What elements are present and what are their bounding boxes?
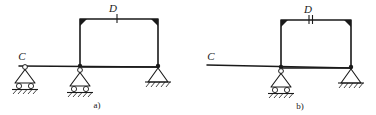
support-b-0-roller [268,65,294,98]
support-a-1-hatching [68,93,92,98]
frame-b-outline [281,20,351,68]
figure-container: D C [0,0,376,115]
support-a-0-roller-left [16,83,21,88]
diagram-b: D C [207,3,364,111]
support-a-1-roller-left [71,86,76,91]
support-a-0-roller [12,65,38,94]
support-b-1-triangle [341,69,361,83]
support-b-1-hatching [339,83,363,88]
support-a-0-roller-right [28,83,33,88]
frame-b-corner-tr [344,20,351,27]
frame-a [80,19,158,67]
frame-a-corner-tr [151,19,158,26]
support-b-0-triangle [271,74,291,88]
support-a-0-pin [23,65,28,70]
support-a-1-roller-right [83,86,88,91]
structural-diagram-svg: D C [0,0,376,115]
frame-b [281,20,351,68]
support-a-1-pin [78,68,83,73]
support-b-0-roller-left [272,87,277,92]
support-a-0-hatching [13,90,37,95]
support-b-0-roller-right [284,87,289,92]
label-a-D: D [108,2,117,14]
diagram-a: D C [12,2,171,110]
label-a-C: C [18,50,26,62]
support-b-0-pin [279,69,284,74]
support-a-0-triangle [15,70,35,84]
support-b-0-hatching [269,94,293,99]
support-a-1-triangle [70,73,90,87]
support-a-2-hatching [146,82,170,87]
caption-a: a) [94,100,101,110]
frame-a-outline [80,19,158,67]
label-b-C: C [207,50,215,62]
frame-b-corner-tl [281,20,288,27]
support-a-1-roller [67,64,93,97]
beam-a [19,66,158,67]
label-b-D: D [303,3,312,15]
frame-a-corner-tl [80,19,87,26]
caption-b: b) [296,101,304,111]
support-a-2-triangle [148,68,168,82]
